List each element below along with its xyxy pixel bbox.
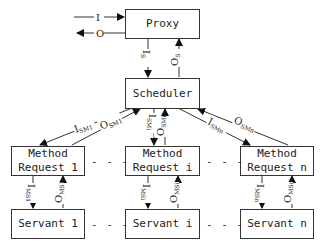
servant-label: Servant 1	[18, 217, 78, 231]
method-request-i-node: Method Request i	[125, 146, 200, 176]
method-request-label-line1: Method	[28, 147, 68, 161]
servant-label: Servant n	[247, 217, 307, 231]
ellipsis-connector: - - -	[91, 155, 129, 168]
servant-i-node: Servant i	[125, 209, 200, 239]
method-request-1-node: Method Request 1	[11, 146, 85, 176]
method-request-label-line2: Request n	[247, 161, 307, 175]
servant-1-node: Servant 1	[11, 209, 85, 239]
method-request-label-line2: Request 1	[18, 161, 78, 175]
ellipsis-connector: - - -	[91, 218, 129, 231]
ellipsis-connector: - - -	[206, 218, 244, 231]
method-request-label-line1: Method	[257, 147, 297, 161]
method-request-label-line1: Method	[143, 147, 183, 161]
edge-label-input: I	[96, 12, 100, 23]
proxy-label: Proxy	[146, 17, 179, 31]
scheduler-node: Scheduler	[125, 78, 200, 109]
servant-label: Servant i	[133, 217, 193, 231]
ellipsis-connector: - - -	[206, 155, 244, 168]
servant-n-node: Servant n	[240, 209, 314, 239]
edge-label-output: O	[96, 28, 104, 39]
proxy-node: Proxy	[125, 9, 200, 39]
method-request-n-node: Method Request n	[240, 146, 314, 176]
scheduler-label: Scheduler	[133, 87, 193, 101]
method-request-label-line2: Request i	[133, 161, 193, 175]
